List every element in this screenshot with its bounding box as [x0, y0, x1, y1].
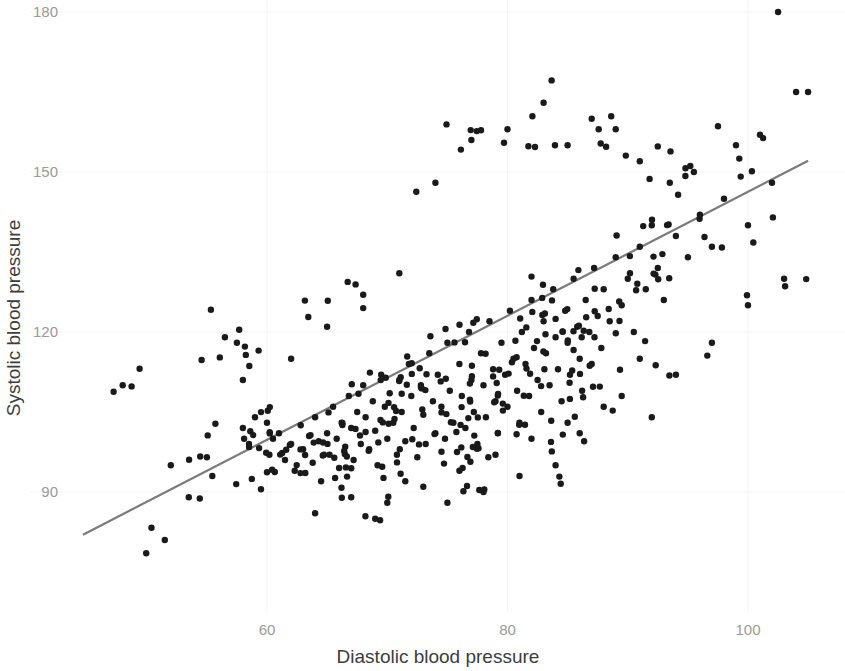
- data-point: [564, 142, 570, 148]
- data-point: [665, 221, 671, 227]
- data-point: [560, 329, 566, 335]
- data-point: [528, 273, 534, 279]
- data-point: [360, 305, 366, 311]
- data-point: [666, 372, 672, 378]
- data-point: [552, 334, 558, 340]
- data-point: [458, 404, 464, 410]
- data-point: [521, 393, 527, 399]
- data-point: [298, 422, 304, 428]
- data-point: [745, 302, 751, 308]
- data-point: [538, 383, 544, 389]
- data-point: [402, 438, 408, 444]
- data-point: [324, 324, 330, 330]
- data-point: [413, 189, 419, 195]
- data-point: [136, 366, 142, 372]
- data-point: [617, 367, 623, 373]
- data-point: [208, 307, 214, 313]
- data-point: [469, 373, 475, 379]
- data-point: [324, 441, 330, 447]
- data-point: [466, 329, 472, 335]
- data-point: [212, 421, 218, 427]
- data-point: [354, 409, 360, 415]
- data-point: [377, 417, 383, 423]
- data-point: [318, 478, 324, 484]
- data-point: [538, 409, 544, 415]
- data-point: [197, 495, 203, 501]
- data-point: [552, 462, 558, 468]
- data-point: [458, 146, 464, 152]
- data-point: [370, 398, 376, 404]
- data-point: [325, 409, 331, 415]
- data-point: [581, 438, 587, 444]
- data-point: [601, 404, 607, 410]
- data-point: [471, 432, 477, 438]
- data-point: [404, 353, 410, 359]
- data-point: [282, 457, 288, 463]
- data-point: [346, 393, 352, 399]
- data-point: [478, 127, 484, 133]
- data-point: [393, 408, 399, 414]
- data-point: [542, 331, 548, 337]
- data-point: [350, 457, 356, 463]
- data-point: [517, 315, 523, 321]
- data-point: [704, 352, 710, 358]
- data-point: [601, 286, 607, 292]
- data-point: [709, 340, 715, 346]
- data-point: [760, 135, 766, 141]
- data-point: [564, 306, 570, 312]
- data-point: [592, 286, 598, 292]
- data-point: [579, 334, 585, 340]
- data-point: [512, 338, 518, 344]
- data-point: [468, 137, 474, 143]
- data-point: [267, 404, 273, 410]
- data-point: [603, 144, 609, 150]
- data-point: [738, 173, 744, 179]
- data-point: [443, 121, 449, 127]
- data-point: [552, 316, 558, 322]
- data-point: [494, 380, 500, 386]
- data-point: [566, 380, 572, 386]
- data-point: [288, 356, 294, 362]
- data-point: [460, 488, 466, 494]
- data-point: [186, 457, 192, 463]
- y-tick-label: 180: [33, 3, 58, 20]
- data-point: [591, 334, 597, 340]
- data-point: [513, 431, 519, 437]
- data-point: [607, 318, 613, 324]
- data-point: [408, 393, 414, 399]
- data-point: [606, 306, 612, 312]
- data-point: [613, 126, 619, 132]
- data-point: [469, 363, 475, 369]
- data-point: [242, 343, 248, 349]
- data-point: [640, 223, 646, 229]
- data-point: [597, 383, 603, 389]
- data-point: [258, 486, 264, 492]
- data-point: [426, 350, 432, 356]
- data-point: [467, 398, 473, 404]
- data-point: [492, 452, 498, 458]
- data-point: [556, 473, 562, 479]
- data-point: [418, 384, 424, 390]
- data-point: [402, 478, 408, 484]
- data-point: [558, 398, 564, 404]
- data-point: [377, 517, 383, 523]
- data-point: [339, 420, 345, 426]
- data-point: [252, 414, 258, 420]
- data-point: [375, 439, 381, 445]
- data-point: [637, 356, 643, 362]
- data-point: [459, 393, 465, 399]
- data-point: [324, 430, 330, 436]
- data-point: [310, 460, 316, 466]
- data-point: [264, 420, 270, 426]
- data-point: [637, 158, 643, 164]
- data-point: [715, 123, 721, 129]
- data-point: [143, 550, 149, 556]
- data-point: [598, 345, 604, 351]
- data-point: [590, 384, 596, 390]
- data-point: [570, 276, 576, 282]
- data-point: [516, 422, 522, 428]
- data-point: [457, 422, 463, 428]
- data-point: [336, 465, 342, 471]
- data-point: [667, 148, 673, 154]
- data-point: [495, 430, 501, 436]
